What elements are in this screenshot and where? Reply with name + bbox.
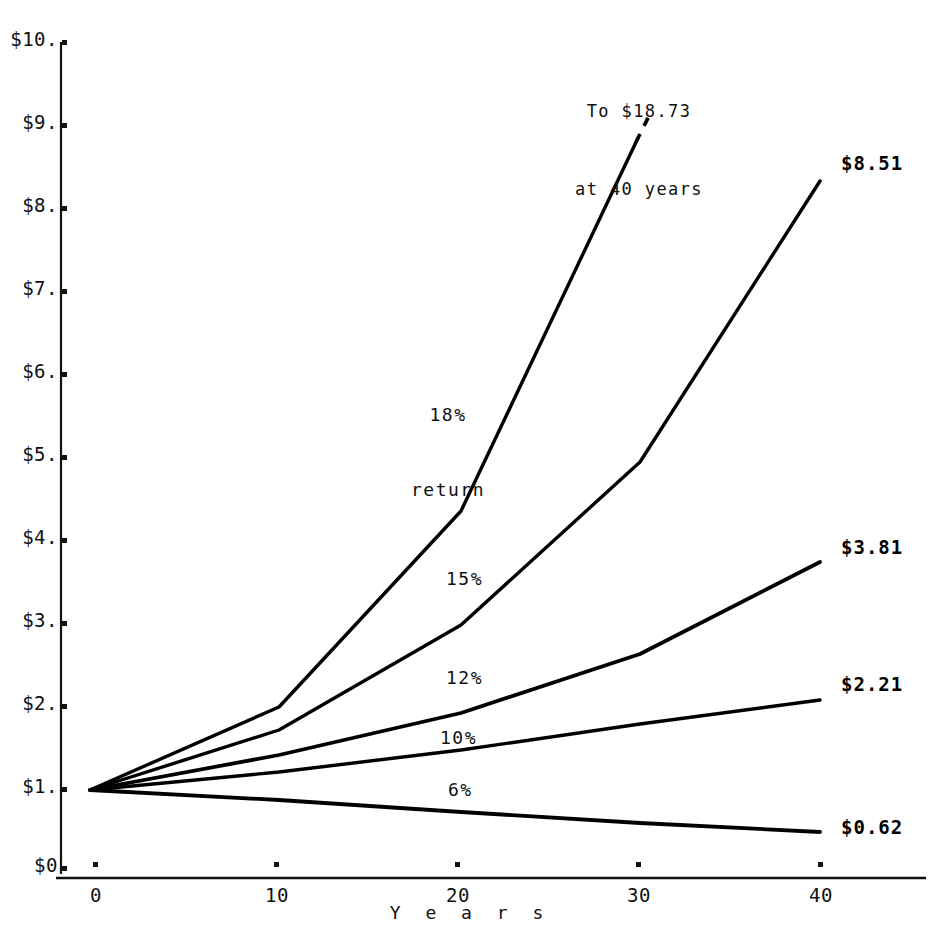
- end-label-15: $8.51: [841, 152, 903, 174]
- y-tick-label-1: $1.: [0, 775, 58, 797]
- extrapolation-annotation-line1: To $18.73: [575, 98, 703, 124]
- y-tick-label-5: $5.: [0, 443, 58, 465]
- y-tick-label-2: $2.: [0, 692, 58, 714]
- y-tick-label-10: $10.: [0, 28, 58, 50]
- y-tick-label-0: $0: [0, 854, 58, 876]
- x-tick-marks: [93, 862, 823, 867]
- y-tick-label-8: $8.: [0, 194, 58, 216]
- y-tick-label-6: $6.: [0, 360, 58, 382]
- end-label-12: $3.81: [841, 536, 903, 558]
- series-label-18-line1: 18%: [411, 402, 485, 427]
- y-tick-label-3: $3.: [0, 609, 58, 631]
- end-label-10: $2.21: [841, 673, 903, 695]
- extrapolation-annotation: To $18.73 at 40 years: [575, 46, 703, 254]
- series-label-12: 12%: [446, 665, 483, 690]
- series-label-18-line2: return: [411, 477, 485, 502]
- y-tick-marks: [62, 40, 67, 871]
- series-label-10: 10%: [440, 725, 477, 750]
- end-label-6: $0.62: [841, 816, 903, 838]
- chart-container: REAL RETURNS AFTER TAXES & INFLATION: [0, 0, 940, 944]
- series-label-15: 15%: [446, 566, 483, 591]
- series-line-18: [90, 138, 638, 790]
- y-tick-label-4: $4.: [0, 526, 58, 548]
- y-tick-label-9: $9.: [0, 111, 58, 133]
- series-label-18: 18% return: [411, 352, 485, 552]
- y-tick-label-7: $7.: [0, 277, 58, 299]
- series-label-6: 6%: [448, 777, 473, 802]
- extrapolation-annotation-line2: at 40 years: [575, 176, 703, 202]
- x-axis-title: Y e a r s: [0, 902, 940, 923]
